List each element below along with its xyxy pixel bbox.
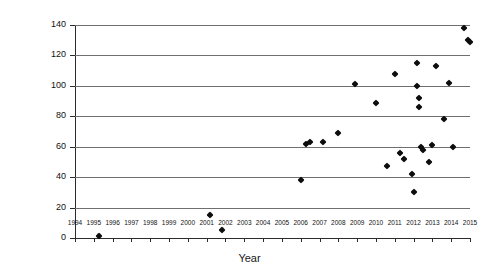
- gridline: [75, 86, 470, 87]
- y-tick-mark: [70, 116, 75, 117]
- data-point: [425, 158, 432, 165]
- y-tick-mark: [70, 147, 75, 148]
- y-tick-label: 60: [0, 142, 66, 151]
- data-point: [391, 70, 398, 77]
- data-point: [433, 63, 440, 70]
- gridline: [75, 116, 470, 117]
- data-point: [218, 227, 225, 234]
- data-point: [410, 189, 417, 196]
- x-tick-mark: [357, 238, 358, 242]
- x-tick-mark: [188, 238, 189, 242]
- data-point: [297, 177, 304, 184]
- y-tick-mark: [70, 86, 75, 87]
- plot-area: [75, 25, 470, 238]
- x-tick-mark: [432, 238, 433, 242]
- data-point: [416, 104, 423, 111]
- gridline: [75, 55, 470, 56]
- data-point: [335, 129, 342, 136]
- y-tick-label: 0: [0, 233, 66, 242]
- x-tick-mark: [207, 238, 208, 242]
- y-tick-mark: [70, 55, 75, 56]
- scatter-chart-figure: Power efficiency (lm/W) 0204060801001201…: [0, 0, 499, 280]
- x-tick-mark: [470, 238, 471, 242]
- y-tick-mark: [70, 208, 75, 209]
- data-point: [416, 94, 423, 101]
- y-tick-label: 20: [0, 203, 66, 212]
- gridline: [75, 147, 470, 148]
- data-point: [320, 139, 327, 146]
- data-point: [207, 212, 214, 219]
- x-tick-mark: [150, 238, 151, 242]
- x-tick-mark: [301, 238, 302, 242]
- data-point: [372, 99, 379, 106]
- data-point: [414, 82, 421, 89]
- y-tick-mark: [70, 25, 75, 26]
- y-tick-label: 140: [0, 20, 66, 29]
- x-tick-mark: [169, 238, 170, 242]
- x-axis-title: Year: [0, 252, 499, 265]
- x-tick-mark: [244, 238, 245, 242]
- x-tick-mark: [263, 238, 264, 242]
- y-axis-line: [75, 25, 76, 238]
- data-point: [440, 116, 447, 123]
- x-tick-mark: [451, 238, 452, 242]
- data-point: [401, 155, 408, 162]
- x-tick-mark: [395, 238, 396, 242]
- x-tick-mark: [75, 238, 76, 242]
- y-tick-label: 80: [0, 111, 66, 120]
- x-tick-mark: [225, 238, 226, 242]
- y-tick-label: 100: [0, 81, 66, 90]
- x-tick-mark: [338, 238, 339, 242]
- x-tick-mark: [94, 238, 95, 242]
- gridline: [75, 25, 470, 26]
- y-tick-mark: [70, 177, 75, 178]
- data-point: [450, 143, 457, 150]
- x-tick-mark: [282, 238, 283, 242]
- x-tick-mark: [131, 238, 132, 242]
- y-tick-label: 40: [0, 172, 66, 181]
- x-tick-mark: [414, 238, 415, 242]
- data-point: [384, 163, 391, 170]
- x-tick-label: 2015: [455, 219, 485, 226]
- x-tick-mark: [376, 238, 377, 242]
- x-tick-mark: [320, 238, 321, 242]
- x-tick-mark: [113, 238, 114, 242]
- data-point: [414, 59, 421, 66]
- y-tick-label: 120: [0, 50, 66, 59]
- x-axis-line: [75, 238, 470, 239]
- gridline: [75, 208, 470, 209]
- data-point: [466, 38, 473, 45]
